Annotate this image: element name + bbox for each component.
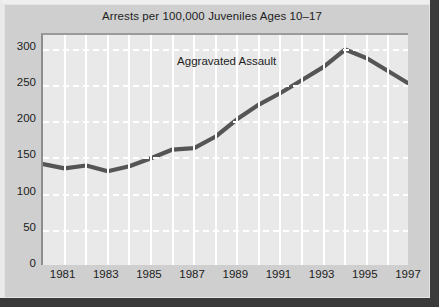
x-axis-tick-label: 1983 xyxy=(93,268,119,280)
y-axis-tick-label: 150 xyxy=(2,148,36,160)
plot-area xyxy=(41,33,408,265)
horizontal-gridline xyxy=(43,194,408,196)
x-axis-tick-label: 1997 xyxy=(395,268,421,280)
x-axis-tick-label: 1993 xyxy=(309,268,335,280)
y-axis-tick-label: 100 xyxy=(2,185,36,197)
y-axis-tick-label: 50 xyxy=(2,221,36,233)
y-axis-tick-label: 200 xyxy=(2,112,36,124)
y-axis-tick-label: 300 xyxy=(2,40,36,52)
y-axis-tick-label: 0 xyxy=(2,257,36,269)
horizontal-gridline xyxy=(43,121,408,123)
y-axis: 050100150200250300 xyxy=(0,33,36,265)
x-axis-tick-label: 1987 xyxy=(179,268,205,280)
horizontal-gridline xyxy=(43,49,408,51)
horizontal-gridline xyxy=(43,230,408,232)
x-axis: 198119831985198719891991199319951997 xyxy=(41,268,408,290)
chart-figure: Arrests per 100,000 Juveniles Ages 10–17… xyxy=(0,0,439,307)
x-axis-tick-label: 1985 xyxy=(136,268,162,280)
y-axis-tick-label: 250 xyxy=(2,76,36,88)
x-axis-tick-label: 1981 xyxy=(50,268,76,280)
series-annotation-label: Aggravated Assault xyxy=(177,55,276,67)
chart-title: Arrests per 100,000 Juveniles Ages 10–17 xyxy=(0,10,424,22)
horizontal-gridline xyxy=(43,85,408,87)
x-axis-tick-label: 1995 xyxy=(352,268,378,280)
x-axis-tick-label: 1989 xyxy=(222,268,248,280)
x-axis-tick-label: 1991 xyxy=(266,268,292,280)
horizontal-gridline xyxy=(43,157,408,159)
